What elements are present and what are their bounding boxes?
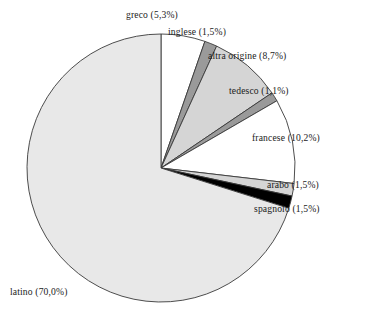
slice-label-greco: greco (5,3%) bbox=[126, 10, 178, 20]
pie-chart: greco (5,3%) inglese (1,5%) altra origin… bbox=[0, 0, 392, 322]
slice-label-spagnolo: spagnolo (1,5%) bbox=[254, 204, 320, 214]
slice-label-inglese: inglese (1,5%) bbox=[168, 27, 226, 37]
slice-label-altra-origine: altra origine (8,7%) bbox=[208, 51, 286, 61]
pie-slice-group bbox=[27, 34, 295, 302]
slice-label-francese: francese (10,2%) bbox=[252, 133, 320, 143]
slice-label-tedesco: tedesco (1,1%) bbox=[229, 86, 289, 96]
slice-label-latino: latino (70,0%) bbox=[10, 287, 68, 297]
pie-chart-canvas bbox=[0, 0, 392, 322]
slice-label-arabo: arabo (1,5%) bbox=[267, 180, 319, 190]
